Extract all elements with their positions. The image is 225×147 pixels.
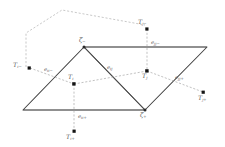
edge-label-ij-sub: ij xyxy=(110,66,112,71)
node-label-tj-plus-sub: j+ xyxy=(202,97,206,102)
node-label-ti-plus-sub: i+ xyxy=(70,136,75,141)
edge-label-ii-plus-sub: ii+ xyxy=(81,115,87,120)
vertex-label-zeta-minus-sub: − xyxy=(82,39,85,44)
vertex-label-zeta-minus: ζ− xyxy=(79,37,86,44)
vertex-label-zeta-plus: ζ+ xyxy=(140,112,147,119)
node-label-ti-minus: Ti− xyxy=(13,62,22,69)
node-label-tj: Tj xyxy=(142,73,147,80)
node-dot-ti-minus[interactable] xyxy=(28,66,31,69)
edge-ij xyxy=(74,71,147,84)
node-label-ti-sub: i xyxy=(72,76,73,81)
edge-label-jj-plus: ejj+ xyxy=(175,75,184,81)
edge-label-ii-minus-sub: ii− xyxy=(47,68,53,73)
triangle-left-edges xyxy=(23,47,145,110)
node-dot-ti-plus[interactable] xyxy=(73,130,76,133)
diagram-svg xyxy=(0,0,225,147)
diagram-canvas: Ti− Tj− Ti Tj Ti+ Tj+ eii− eij ejj− ejj+… xyxy=(0,0,225,147)
node-label-tj-minus-sub: j− xyxy=(142,21,146,26)
node-dot-tj-minus[interactable] xyxy=(145,27,148,30)
edge-label-jj-minus: ejj− xyxy=(151,40,160,46)
vertex-label-zeta-plus-sub: + xyxy=(143,114,146,119)
vertex-dot-zeta-minus[interactable] xyxy=(83,46,86,49)
node-label-tj-sub: j xyxy=(146,75,147,80)
node-label-tj-plus: Tj+ xyxy=(198,95,207,102)
node-label-ti: Ti xyxy=(68,74,73,81)
node-label-tj-minus: Tj− xyxy=(138,19,147,26)
node-label-ti-plus: Ti+ xyxy=(66,134,75,141)
edge-label-ii-minus: eii− xyxy=(44,67,53,73)
node-label-ti-minus-sub: i− xyxy=(17,64,22,69)
edge-label-jj-minus-sub: jj− xyxy=(154,41,160,46)
node-dot-ti[interactable] xyxy=(72,82,75,85)
edge-label-ij: eij xyxy=(107,65,113,71)
edge-label-jj-plus-sub: jj+ xyxy=(178,76,184,81)
edge-label-ii-plus: eii+ xyxy=(78,114,87,120)
